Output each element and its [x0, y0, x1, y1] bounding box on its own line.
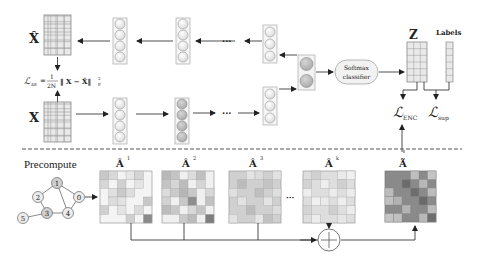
graph-node-3: 3 [42, 208, 53, 219]
svg-text:Softmax: Softmax [344, 64, 370, 71]
ahatk-matrix [303, 171, 355, 223]
atilde-matrix [385, 171, 436, 222]
ellipsis-decoder: ··· [222, 36, 231, 46]
svg-text:1: 1 [127, 155, 130, 161]
bottleneck-layer [298, 55, 315, 90]
svg-text:F: F [98, 82, 101, 87]
xhat-matrix [44, 15, 71, 55]
encoder-layer-2 [175, 98, 189, 144]
labels-vector [446, 42, 453, 82]
decoder-layer-3 [263, 25, 277, 63]
svg-text:classifier: classifier [343, 73, 370, 80]
ahat1-matrix [100, 171, 152, 223]
svg-text:1: 1 [50, 73, 54, 80]
graph-node-1: 1 [52, 178, 63, 189]
loss-ae-formula: ℒ AE = 1 2N ‖ X − X̂‖ 2 F [24, 73, 101, 89]
decoder-layer-2 [176, 18, 190, 64]
svg-text:3: 3 [260, 155, 263, 161]
graph-node-4: 4 [63, 208, 74, 219]
xhat-label: X̂ [29, 31, 40, 46]
svg-text:2N: 2N [47, 82, 56, 89]
labels-label: Labels [436, 28, 461, 37]
loss-enc: ℒ ENC [393, 104, 418, 121]
graph-node-2: 2 [33, 192, 44, 203]
ahat2-label: Â [181, 158, 190, 169]
x-matrix [44, 102, 71, 142]
ahat3-label: Â [248, 158, 257, 169]
ahat2-matrix [162, 171, 214, 223]
svg-text:sup: sup [438, 114, 449, 122]
svg-text:2: 2 [36, 194, 40, 202]
svg-text:2: 2 [193, 155, 196, 161]
svg-text:=: = [40, 77, 46, 85]
svg-text:4: 4 [66, 210, 71, 218]
svg-text:k: k [336, 155, 340, 161]
softmax-classifier: Softmax classifier [335, 60, 378, 84]
svg-text:5: 5 [21, 215, 25, 223]
decoder-layer-1 [113, 18, 127, 64]
svg-text:‖ X − X̂‖: ‖ X − X̂‖ [60, 77, 91, 86]
ellipsis-encoder: ··· [222, 108, 231, 118]
svg-text:AE: AE [30, 82, 37, 87]
atilde-label: Ã [398, 158, 407, 169]
encoder-layer-1 [113, 98, 127, 144]
svg-text:2: 2 [98, 76, 101, 81]
svg-text:ℒ: ℒ [24, 76, 31, 86]
svg-text:1: 1 [55, 180, 59, 188]
svg-text:0: 0 [77, 194, 81, 202]
ahat1-label: Â [115, 158, 124, 169]
architecture-diagram: X̂ ℒ AE = 1 2N ‖ X − X̂‖ 2 F X [0, 0, 480, 263]
loss-sup: ℒ sup [428, 104, 449, 122]
x-label: X [29, 110, 40, 125]
encoder-layer-3 [263, 87, 277, 125]
graph-node-0: 0 [74, 192, 85, 203]
z-label: Z [409, 28, 418, 42]
ellipsis-matrices: ··· [286, 192, 295, 202]
svg-text:3: 3 [45, 210, 49, 218]
z-matrix [407, 42, 427, 82]
ahatk-label: Â [324, 158, 333, 169]
ahat3-matrix [229, 171, 281, 223]
graph-node-5: 5 [18, 213, 29, 224]
sum-operator [318, 229, 340, 251]
svg-text:ENC: ENC [403, 114, 418, 121]
precompute-label: Precompute [24, 158, 77, 170]
